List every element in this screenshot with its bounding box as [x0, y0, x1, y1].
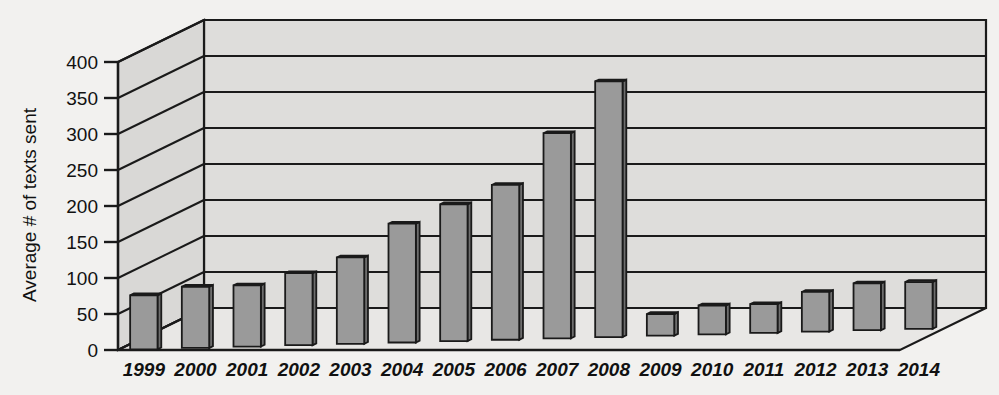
x-tick-label: 2010 — [690, 359, 734, 380]
bar-2010[interactable] — [699, 304, 730, 335]
bar-front-face — [389, 224, 416, 343]
x-tick-label: 2007 — [535, 359, 580, 380]
bar-2008[interactable] — [595, 80, 626, 337]
bar-2012[interactable] — [802, 290, 833, 331]
y-tick-label: 200 — [66, 196, 98, 217]
bar-2001[interactable] — [233, 284, 264, 347]
bar-2007[interactable] — [544, 131, 575, 338]
bar-front-face — [182, 287, 209, 348]
y-tick-label: 0 — [87, 340, 98, 361]
bar-front-face — [854, 283, 881, 330]
x-tick-label: 2014 — [897, 359, 941, 380]
bar-2005[interactable] — [440, 202, 471, 341]
x-tick-label: 2003 — [328, 359, 372, 380]
x-tick-label: 2004 — [380, 359, 424, 380]
y-tick-label: 100 — [66, 268, 98, 289]
bar-front-face — [440, 204, 467, 341]
bar-2000[interactable] — [182, 285, 213, 348]
x-tick-label: 2001 — [225, 359, 268, 380]
x-tick-label: 2008 — [587, 359, 631, 380]
bar-2014[interactable] — [905, 280, 936, 329]
bar-2011[interactable] — [750, 302, 781, 333]
y-tick-label: 400 — [66, 52, 98, 73]
bar-front-face — [285, 273, 312, 345]
bar-2009[interactable] — [647, 312, 678, 335]
x-tick-label: 2000 — [173, 359, 217, 380]
y-tick-label: 250 — [66, 160, 98, 181]
x-tick-label: 2006 — [483, 359, 527, 380]
y-tick-label: 150 — [66, 232, 98, 253]
y-axis-title: Average # of texts sent — [19, 107, 40, 302]
bar-2013[interactable] — [854, 282, 885, 331]
bar-front-face — [647, 314, 674, 336]
y-tick-label: 300 — [66, 124, 98, 145]
bar-front-face — [699, 306, 726, 335]
bar-front-face — [544, 133, 571, 338]
x-tick-label: 2012 — [793, 359, 837, 380]
bar-chart-3d: 400350300250200150100500 199920002001200… — [0, 0, 999, 395]
x-tick-label: 2005 — [432, 359, 476, 380]
x-tick-label: 2013 — [845, 359, 889, 380]
bar-front-face — [750, 304, 777, 333]
bar-front-face — [233, 285, 260, 346]
x-tick-label: 2009 — [638, 359, 682, 380]
bar-front-face — [337, 257, 364, 343]
bar-front-face — [802, 292, 829, 332]
y-tick-label: 350 — [66, 88, 98, 109]
y-tick-label: 50 — [77, 304, 98, 325]
x-tick-label: 2011 — [742, 359, 784, 380]
bar-2003[interactable] — [337, 256, 368, 344]
bar-front-face — [130, 295, 157, 349]
bar-front-face — [905, 282, 932, 329]
bar-2002[interactable] — [285, 271, 316, 345]
bar-2004[interactable] — [389, 222, 420, 343]
bar-front-face — [492, 185, 519, 340]
bar-1999[interactable] — [130, 293, 161, 349]
bar-2006[interactable] — [492, 183, 523, 340]
chart-canvas: 400350300250200150100500 199920002001200… — [0, 0, 999, 395]
bar-front-face — [595, 81, 622, 337]
x-tick-label: 1999 — [123, 359, 166, 380]
x-tick-label: 2002 — [277, 359, 321, 380]
